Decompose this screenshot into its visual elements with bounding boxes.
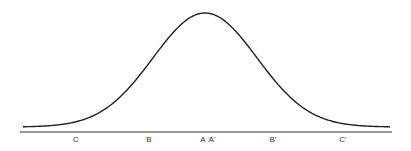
label-a-prime: A' (209, 135, 216, 144)
label-c: C (73, 135, 79, 144)
label-c-prime: C' (339, 135, 346, 144)
bell-curve-diagram (0, 0, 411, 151)
label-b: B (146, 135, 151, 144)
bell-curve (23, 13, 390, 127)
label-a: A (200, 135, 205, 144)
label-b-prime: B' (270, 135, 277, 144)
